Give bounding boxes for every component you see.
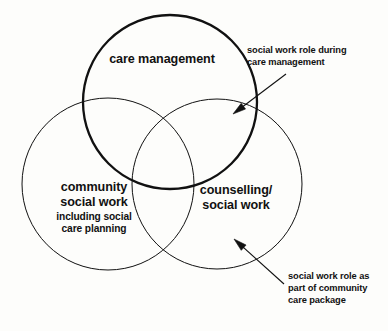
annotation-community-care-package-role: social work role as part of community ca… bbox=[288, 270, 388, 306]
arrow-care-management bbox=[233, 74, 286, 114]
circle-care-management bbox=[83, 15, 257, 189]
label-community-social-work-sublabel: including social care planning bbox=[38, 211, 150, 235]
label-community-social-work: community social work bbox=[38, 180, 150, 210]
label-counselling-social-work: counselling/ social work bbox=[182, 183, 290, 213]
arrow-community-package bbox=[234, 239, 284, 284]
annotation-care-management-role: social work role during care management bbox=[247, 44, 383, 68]
label-care-management: care management bbox=[100, 52, 224, 67]
venn-diagram-figure: care management community social work in… bbox=[0, 0, 388, 331]
